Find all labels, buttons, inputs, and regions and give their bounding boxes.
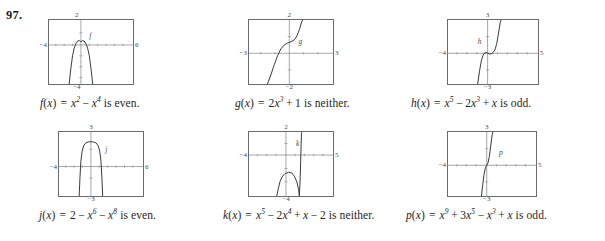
graph-plot-j xyxy=(59,132,143,196)
page-tail-text xyxy=(150,232,602,240)
caption-p: p(x)=x9+3x5−x3+x is odd. xyxy=(406,207,547,221)
caption-f: f(x)=x2−x4 is even. xyxy=(40,95,140,109)
axis-label-right-h: 5 xyxy=(538,50,544,57)
curve-label-g: g xyxy=(299,38,303,46)
axis-label-right-j: 6 xyxy=(143,163,149,170)
caption-token: = xyxy=(254,97,269,109)
caption-token: − xyxy=(265,209,277,221)
graph-plot-k xyxy=(249,132,333,196)
axis-label-top-j: 3 xyxy=(89,124,93,131)
caption-token: = xyxy=(425,209,440,221)
caption-g: g(x)=2x3+1 is neither. xyxy=(235,95,350,109)
caption-token: − xyxy=(308,209,320,221)
axis-label-top-h: 3 xyxy=(486,12,490,19)
axis-label-left-g: −3 xyxy=(240,50,249,57)
axis-label-bottom-p: −3 xyxy=(483,196,490,203)
axis-label-right-p: 5 xyxy=(536,162,542,169)
caption-token: − xyxy=(475,209,487,221)
graph-plot-g xyxy=(249,20,333,84)
graph-cell-j: 3 −3 −4 6 j j(x)=2−x6−x8 is even. xyxy=(58,131,213,223)
axis-label-bottom-k: −4 xyxy=(282,196,289,203)
axis-label-top-g: 2 xyxy=(288,12,292,19)
axis-label-left-j: −4 xyxy=(50,163,59,170)
graph-cell-f: 2 −4 −4 6 f f(x)=x2−x4 is even. xyxy=(48,19,203,111)
caption-token: is odd. xyxy=(513,209,547,221)
curve-label-j: j xyxy=(105,146,107,154)
axis-label-right-k: 5 xyxy=(333,152,339,159)
caption-token: 4 xyxy=(288,207,292,216)
caption-token: = xyxy=(430,97,445,109)
caption-token: = xyxy=(55,209,70,221)
caption-token: + xyxy=(283,97,295,109)
caption-token: is neither. xyxy=(326,209,375,221)
graph-screen-j: 3 −3 −4 6 j xyxy=(58,131,144,197)
graph-screen-f: 2 −4 −4 6 f xyxy=(48,19,134,85)
axis-label-left-h: −4 xyxy=(439,50,448,57)
axis-label-left-k: −4 xyxy=(240,152,249,159)
caption-token: + xyxy=(449,209,461,221)
axis-label-left-f: −4 xyxy=(40,41,49,48)
caption-token: + xyxy=(496,209,508,221)
caption-token: − xyxy=(454,97,466,109)
curve-label-f: f xyxy=(89,32,91,40)
axis-label-top-k: 2 xyxy=(284,124,288,131)
axis-label-left-p: −4 xyxy=(439,162,448,169)
caption-token: − xyxy=(80,97,92,109)
curve-label-k: k xyxy=(296,140,299,148)
axis-label-bottom-g: −2 xyxy=(286,84,293,91)
caption-h: h(x)=x5−2x3+x is odd. xyxy=(411,95,531,109)
axis-label-top-p: 3 xyxy=(485,124,489,131)
graph-plot-p xyxy=(448,132,536,196)
graph-cell-h: 3 −3 −4 5 h h(x)=x5−2x3+x is odd. xyxy=(447,19,602,111)
graph-cell-p: 3 −3 −4 5 p p(x)=x9+3x5−x3+x is odd. xyxy=(447,131,602,223)
graph-plot-h xyxy=(448,20,538,84)
axis-label-top-f: 2 xyxy=(75,12,79,19)
graph-screen-g: 2 −2 −3 3 g xyxy=(248,19,334,85)
curve-label-h: h xyxy=(478,38,482,46)
caption-token: − xyxy=(76,209,88,221)
exercise-number: 97. xyxy=(6,8,22,23)
axis-label-bottom-h: −3 xyxy=(484,84,491,91)
caption-k: k(x)=x5−2x4+x−2 is neither. xyxy=(223,207,375,221)
graph-screen-h: 3 −3 −4 5 h xyxy=(447,19,539,85)
caption-token: + xyxy=(292,209,304,221)
graph-cell-g: 2 −2 −3 3 g g(x)=2x3+1 is neither. xyxy=(248,19,403,111)
caption-token: − xyxy=(97,209,109,221)
axis-label-right-f: 6 xyxy=(133,41,139,48)
caption-token: = xyxy=(241,209,256,221)
caption-token: is even. xyxy=(101,97,140,109)
caption-j: j(x)=2−x6−x8 is even. xyxy=(39,207,156,221)
graph-screen-p: 3 −3 −4 5 p xyxy=(447,131,537,197)
axis-label-bottom-f: −4 xyxy=(73,84,80,91)
graph-screen-k: 2 −4 −4 5 k xyxy=(248,131,334,197)
caption-token: is neither. xyxy=(301,97,350,109)
graph-cell-k: 2 −4 −4 5 k k(x)=x5−2x4+x−2 is neither. xyxy=(248,131,403,223)
caption-token: is odd. xyxy=(497,97,531,109)
axis-label-bottom-j: −3 xyxy=(87,196,94,203)
graph-plot-f xyxy=(49,20,133,84)
caption-token: is even. xyxy=(117,209,156,221)
curve-label-p: p xyxy=(499,149,503,157)
caption-token: 2 xyxy=(70,209,76,221)
caption-token: = xyxy=(56,97,71,109)
caption-token: + xyxy=(480,97,492,109)
caption-token: 6 xyxy=(93,207,97,216)
exercise-page: 97. xyxy=(0,0,605,241)
axis-label-right-g: 3 xyxy=(333,50,339,57)
